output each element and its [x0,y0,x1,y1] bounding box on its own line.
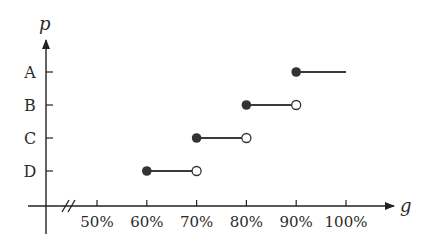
closed-point-icon [142,166,152,176]
y-category-label: D [24,162,37,181]
step-function-chart: p g 50%60%70%80%90%100% ABCD [0,0,429,240]
open-point-icon [292,101,301,110]
step-segments [142,67,346,176]
segment-D [142,166,201,176]
x-tick-label: 100% [325,213,368,231]
y-category-label: B [24,96,36,115]
closed-point-icon [242,100,252,110]
segment-C [192,133,251,143]
y-axis-label: p [39,13,51,34]
segment-A [291,67,346,77]
x-tick-label: 90% [280,213,313,231]
closed-point-icon [291,67,301,77]
y-ticks: ABCD [23,63,53,181]
y-category-label: A [23,63,36,82]
x-tick-label: 60% [130,213,163,231]
segment-B [242,100,301,110]
x-ticks: 50%60%70%80%90%100% [80,200,367,231]
open-point-icon [242,134,251,143]
x-tick-label: 80% [230,213,263,231]
open-point-icon [192,167,201,176]
x-axis-label: g [400,195,412,216]
closed-point-icon [192,133,202,143]
x-tick-label: 70% [180,213,213,231]
x-tick-label: 50% [80,213,113,231]
y-category-label: C [24,129,36,148]
